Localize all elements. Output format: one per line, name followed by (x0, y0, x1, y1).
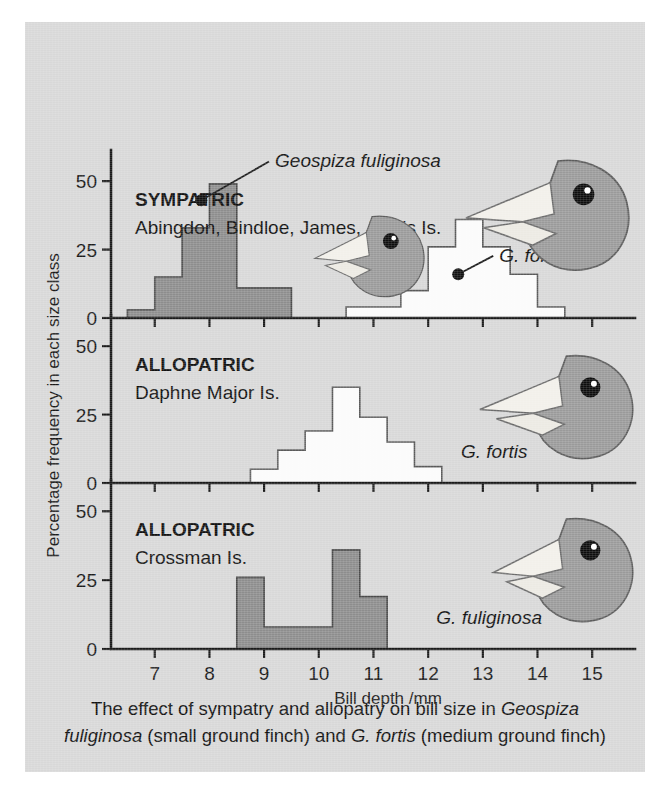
x-axis-tick-label: 8 (204, 663, 215, 684)
panel-title: ALLOPATRIC (135, 354, 255, 375)
histogram-series (237, 550, 387, 649)
species-label: G. fortis (461, 441, 528, 462)
chart-panel-allopatric-crossman: 02550ALLOPATRICCrossman Is.G. fuliginosa (76, 480, 635, 660)
x-axis-tick-label: 9 (259, 663, 270, 684)
species-label: Geospiza fuliginosa (275, 150, 441, 171)
finch-head-icon (493, 519, 632, 622)
figure-caption: The effect of sympatry and allopatry on … (25, 696, 645, 750)
annotation-dot (452, 268, 464, 280)
chart-panel-sympatric: 02550SYMPATRICAbingdon, Bindloe, James, … (76, 150, 635, 329)
y-axis-tick-label: 0 (86, 639, 97, 660)
y-axis-tick-label: 0 (86, 308, 97, 329)
y-axis-tick-label: 50 (76, 171, 97, 192)
caption-text-c: (medium ground finch) (416, 725, 606, 746)
x-axis-tick-label: 7 (149, 663, 160, 684)
x-axis-tick-label: 12 (418, 663, 439, 684)
y-axis-tick-label: 25 (76, 240, 97, 261)
x-axis-tick-label: 10 (308, 663, 329, 684)
caption-text-a: The effect of sympatry and allopatry on … (91, 698, 501, 719)
x-axis-tick-label: 13 (472, 663, 493, 684)
species-label: G. fuliginosa (436, 607, 542, 628)
y-axis-title: Percentage frequency in each size class (44, 253, 63, 557)
y-axis-tick-label: 50 (76, 501, 97, 522)
caption-species: fuliginosa (64, 725, 142, 746)
chart-panel-allopatric-daphne: 02550ALLOPATRICDaphne Major Is.G. fortis (76, 315, 635, 494)
y-axis-tick-label: 50 (76, 336, 97, 357)
caption-genus: Geospiza (501, 698, 579, 719)
panel-subtitle: Crossman Is. (135, 547, 247, 568)
y-axis-tick-label: 0 (86, 473, 97, 494)
figure-panel: 02550SYMPATRICAbingdon, Bindloe, James, … (25, 22, 645, 772)
x-axis-tick-label: 15 (582, 663, 603, 684)
caption-text-b: (small ground finch) and (142, 725, 351, 746)
caption-species-2: G. fortis (351, 725, 416, 746)
finch-bill-depth-histogram: 02550SYMPATRICAbingdon, Bindloe, James, … (25, 22, 645, 712)
x-axis-tick-label: 14 (527, 663, 549, 684)
x-axis-tick-label: 11 (364, 663, 384, 684)
y-axis-tick-label: 25 (76, 405, 97, 426)
panel-title: ALLOPATRIC (135, 519, 255, 540)
annotation-dot (195, 194, 207, 206)
y-axis-tick-label: 25 (76, 570, 97, 591)
panel-title: SYMPATRIC (135, 189, 244, 210)
panel-subtitle: Daphne Major Is. (135, 382, 280, 403)
